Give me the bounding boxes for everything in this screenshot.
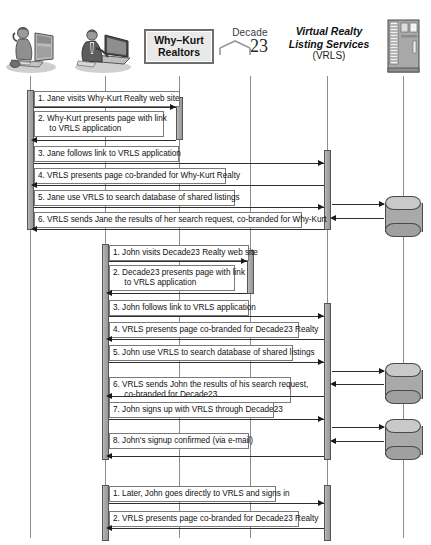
message-label: 4. VRLS presents page co-branded for Dec… bbox=[109, 322, 299, 338]
arrowhead-icon bbox=[170, 104, 176, 110]
message-arrow bbox=[34, 185, 324, 186]
db-request-arrow bbox=[332, 204, 384, 205]
arrowhead-icon bbox=[241, 258, 247, 264]
activation-jane bbox=[27, 90, 34, 230]
message-label: 2. Why-Kurt presents page with link to V… bbox=[34, 111, 164, 137]
activation-john bbox=[102, 244, 109, 460]
message-arrow bbox=[34, 107, 176, 108]
vrls-title: Virtual Realty Listing Services (VRLS) bbox=[283, 25, 375, 61]
person-at-desktop-icon bbox=[3, 19, 59, 75]
message-label: 6. VRLS sends Jane the results of her se… bbox=[34, 212, 302, 228]
db-bottom bbox=[385, 223, 421, 237]
message-label: 7. John signs up with VRLS through Decad… bbox=[109, 402, 274, 418]
database-cylinder bbox=[385, 363, 421, 405]
vrls-title-sub: (VRLS) bbox=[283, 50, 375, 61]
message-label: 1. John visits Decade23 Realty web site bbox=[109, 245, 249, 261]
message-arrow bbox=[109, 261, 247, 262]
message-arrow bbox=[34, 207, 324, 208]
message-arrow bbox=[109, 362, 324, 363]
message-arrow bbox=[109, 528, 324, 529]
why-kurt-logo-label: Why–Kurt Realtors bbox=[144, 29, 214, 64]
message-arrow bbox=[109, 456, 324, 457]
message-label: 3. Jane follows link to VRLS application bbox=[34, 146, 179, 162]
arrowhead-icon bbox=[318, 204, 324, 210]
database-cylinder bbox=[385, 419, 421, 461]
person-at-laptop-icon bbox=[72, 21, 134, 75]
message-label: 1. Jane visits Why-Kurt Realty web site bbox=[34, 91, 180, 107]
message-label: 3. John follows link to VRLS application bbox=[109, 300, 249, 316]
arrowhead-icon bbox=[318, 160, 324, 166]
arrowhead-icon bbox=[31, 137, 37, 143]
decade23-logo-number: 23 bbox=[250, 38, 268, 54]
server-tower-icon bbox=[387, 19, 421, 75]
decade23-logo: Decade 23 bbox=[216, 27, 284, 60]
vrls-title-main: Virtual Realty Listing Services bbox=[283, 25, 375, 50]
db-response-arrow bbox=[332, 384, 384, 385]
message-arrow bbox=[109, 503, 324, 504]
sequence-diagram-canvas: Why–Kurt Realtors Decade 23 Virtual Real… bbox=[0, 0, 431, 545]
message-arrow bbox=[109, 293, 247, 294]
arrowhead-icon bbox=[318, 416, 324, 422]
message-label: 1. Later, John goes directly to VRLS and… bbox=[109, 486, 276, 502]
message-label: 5. Jane use VRLS to search database of s… bbox=[34, 190, 235, 206]
message-arrow bbox=[109, 339, 324, 340]
arrowhead-icon bbox=[31, 226, 37, 232]
db-response-arrow bbox=[332, 218, 384, 219]
message-label: 4. VRLS presents page co-branded for Why… bbox=[34, 168, 226, 184]
lifeline-server bbox=[403, 76, 404, 538]
activation-john-2 bbox=[102, 485, 109, 541]
db-top bbox=[385, 419, 421, 433]
db-request-arrow bbox=[332, 371, 384, 372]
message-arrow bbox=[34, 163, 324, 164]
db-response-arrow bbox=[332, 441, 384, 442]
arrowhead-icon bbox=[106, 453, 112, 459]
message-arrow bbox=[34, 140, 176, 141]
message-label: 8. John's signup confirmed (via e-mail) bbox=[109, 433, 249, 449]
arrowhead-icon bbox=[318, 359, 324, 365]
arrowhead-icon bbox=[318, 500, 324, 506]
message-label: 6. VRLS sends John the results of his se… bbox=[109, 377, 291, 403]
why-kurt-logo: Why–Kurt Realtors bbox=[144, 29, 214, 64]
message-label: 2. VRLS presents page co-branded for Dec… bbox=[109, 511, 299, 527]
arrowhead-icon bbox=[106, 336, 112, 342]
message-arrow bbox=[109, 316, 324, 317]
db-bottom bbox=[385, 446, 421, 460]
message-label: 5. John use VRLS to search database of s… bbox=[109, 345, 293, 361]
arrowhead-icon bbox=[318, 313, 324, 319]
db-top bbox=[385, 363, 421, 377]
arrowhead-icon bbox=[330, 438, 336, 444]
arrowhead-icon bbox=[330, 381, 336, 387]
message-arrow bbox=[109, 396, 324, 397]
database-cylinder bbox=[385, 196, 421, 238]
activation-vrls-3 bbox=[324, 485, 331, 541]
arrowhead-icon bbox=[106, 393, 112, 399]
db-top bbox=[385, 196, 421, 210]
db-request-arrow bbox=[332, 427, 384, 428]
arrowhead-icon bbox=[106, 290, 112, 296]
arrowhead-icon bbox=[31, 182, 37, 188]
arrowhead-icon bbox=[106, 525, 112, 531]
message-label: 2. Decade23 presents page with link to V… bbox=[109, 265, 235, 291]
message-arrow bbox=[109, 419, 324, 420]
arrowhead-icon bbox=[330, 215, 336, 221]
decade23-roof-icon bbox=[218, 39, 254, 59]
db-bottom bbox=[385, 390, 421, 404]
message-arrow bbox=[34, 229, 324, 230]
